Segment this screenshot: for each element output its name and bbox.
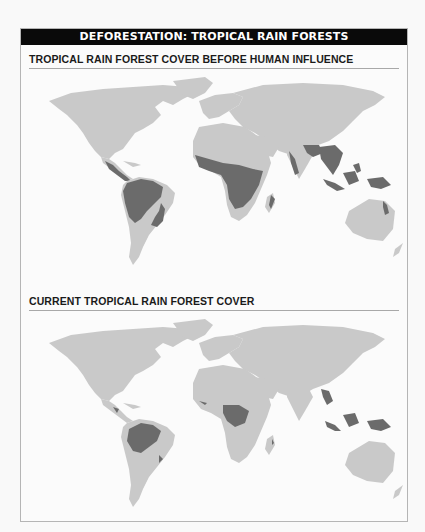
section-title-current: CURRENT TROPICAL RAIN FOREST COVER [29,295,399,311]
map-before-human-influence [23,71,405,277]
world-map-before [23,71,405,277]
section-title-before: TROPICAL RAIN FOREST COVER BEFORE HUMAN … [29,53,399,69]
world-map-current [23,313,405,517]
figure-frame: DEFORESTATION: TROPICAL RAIN FORESTS TRO… [20,28,408,522]
map-current-cover [23,313,405,517]
figure-banner-title: DEFORESTATION: TROPICAL RAIN FORESTS [21,29,407,45]
